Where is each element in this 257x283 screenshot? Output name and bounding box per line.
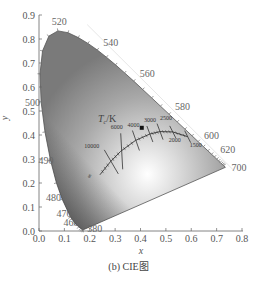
y-tick-label: 0.3 bbox=[23, 154, 36, 165]
locus-tick bbox=[54, 183, 56, 184]
wavelength-label-560: 560 bbox=[140, 68, 155, 79]
locus-tick bbox=[160, 104, 162, 106]
figure-caption: (b) CIE图 bbox=[0, 258, 257, 273]
cct-label-4000: 4000 bbox=[127, 122, 139, 128]
locus-tick bbox=[212, 152, 214, 154]
tc-label: Tc/K bbox=[98, 113, 117, 125]
x-tick-label: 0.3 bbox=[109, 233, 122, 244]
locus-tick bbox=[88, 41, 89, 43]
locus-tick bbox=[97, 48, 98, 50]
cct-label-6000: 6000 bbox=[111, 124, 123, 130]
y-tick-label: 0.6 bbox=[23, 82, 36, 93]
locus-tick bbox=[79, 228, 81, 230]
cct-label-3000: 3000 bbox=[144, 117, 156, 123]
wavelength-label-490: 490 bbox=[38, 155, 53, 166]
locus-tick bbox=[40, 50, 42, 51]
cie-chart: 460470480490500520540560580600620700380∞… bbox=[0, 0, 257, 283]
locus-tick bbox=[78, 35, 79, 37]
wavelength-label-600: 600 bbox=[204, 130, 219, 141]
x-tick-label: 0.7 bbox=[210, 233, 223, 244]
locus-tick bbox=[192, 134, 194, 136]
locus-tick bbox=[152, 96, 154, 98]
locus-tick bbox=[116, 63, 118, 65]
locus-shading bbox=[40, 31, 225, 230]
locus-tick bbox=[68, 30, 69, 32]
x-tick-label: 0.1 bbox=[58, 233, 71, 244]
y-tick-label: 0.0 bbox=[23, 226, 36, 237]
wavelength-label-700: 700 bbox=[232, 162, 247, 173]
wavelength-label-540: 540 bbox=[103, 37, 118, 48]
locus-tick bbox=[220, 161, 222, 163]
locus-tick bbox=[214, 155, 216, 157]
locus-tick bbox=[143, 88, 145, 90]
x-tick-label: 0.5 bbox=[160, 233, 173, 244]
y-tick-label: 0.5 bbox=[23, 106, 36, 117]
y-tick-label: 0.7 bbox=[23, 58, 36, 69]
locus-tick bbox=[177, 120, 179, 122]
x-tick-label: 0.6 bbox=[185, 233, 198, 244]
locus-tick bbox=[106, 55, 108, 57]
y-tick-label: 0.1 bbox=[23, 202, 36, 213]
locus-tick bbox=[208, 149, 210, 151]
wavelength-label-470: 470 bbox=[56, 208, 71, 219]
locus-tick bbox=[203, 145, 205, 147]
locus-tick bbox=[219, 159, 221, 161]
wavelength-label-520: 520 bbox=[52, 16, 67, 27]
locus-tick bbox=[217, 157, 219, 159]
cct-label-2000: 2000 bbox=[169, 137, 181, 143]
wavelength-label-580: 580 bbox=[175, 101, 190, 112]
y-tick-label: 0.4 bbox=[23, 130, 36, 141]
y-tick-label: 0.8 bbox=[23, 34, 36, 45]
locus-tick bbox=[134, 79, 136, 81]
cct-label-10000: 10000 bbox=[84, 143, 99, 149]
x-ticks: 0.00.10.20.30.40.50.60.70.8 bbox=[33, 228, 249, 244]
x-tick-label: 0.4 bbox=[134, 233, 147, 244]
y-tick-label: 0.9 bbox=[23, 10, 36, 21]
wavelength-label-480: 480 bbox=[46, 192, 61, 203]
locus-tick bbox=[185, 127, 187, 129]
marked-point bbox=[140, 126, 144, 130]
x-tick-label: 0.2 bbox=[84, 233, 97, 244]
locus-tick bbox=[125, 71, 127, 73]
cct-label-1500: 1500 bbox=[190, 142, 202, 148]
wavelength-label-620: 620 bbox=[220, 144, 235, 155]
x-tick-label: 0.8 bbox=[236, 233, 249, 244]
y-axis-title: y bbox=[0, 115, 10, 121]
y-tick-label: 0.2 bbox=[23, 178, 36, 189]
x-axis-title: x bbox=[138, 245, 144, 256]
plot-area: 460470480490500520540560580600620700380∞… bbox=[25, 16, 246, 234]
cct-label-2500: 2500 bbox=[160, 115, 172, 121]
locus-tick bbox=[221, 162, 223, 164]
locus-tick bbox=[47, 35, 49, 37]
